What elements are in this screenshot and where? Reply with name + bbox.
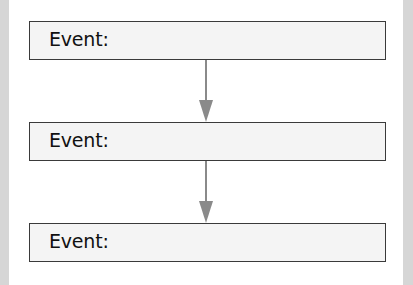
event-box-3[interactable]: Event: (29, 223, 386, 262)
event-box-1[interactable]: Event: (29, 21, 386, 60)
left-border-strip (0, 0, 9, 285)
event-label: Event: (49, 129, 109, 151)
event-label: Event: (49, 28, 109, 50)
down-arrow-icon (199, 161, 213, 224)
right-border-strip (403, 0, 413, 285)
event-label: Event: (49, 230, 109, 252)
event-box-2[interactable]: Event: (29, 122, 386, 161)
down-arrow-icon (199, 60, 213, 123)
